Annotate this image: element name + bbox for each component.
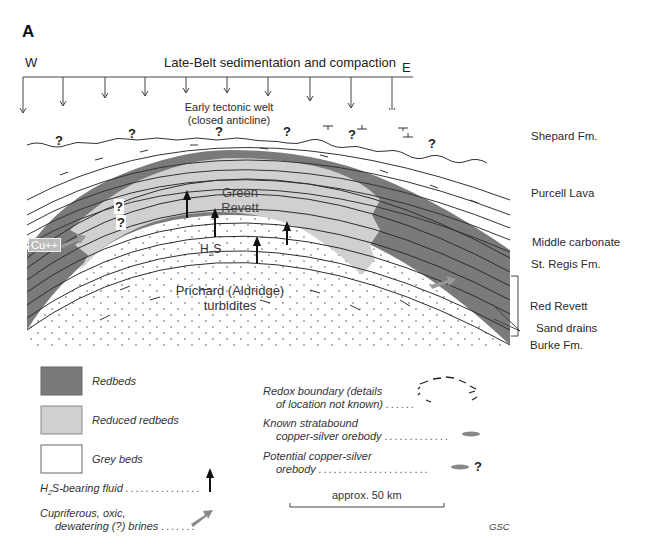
question-mark: ? [428, 136, 436, 151]
prichard-label: Prichard (Aldridge) turbidites [170, 284, 290, 314]
formation-st-regis: St. Regis Fm. [531, 258, 601, 271]
legend-known-orebody-icon [462, 432, 480, 437]
panel-letter: A [22, 22, 34, 42]
legend-label-h2s-fluid: H2S-bearing fluid ............... [40, 482, 202, 497]
legend-label-potential-orebody: Potential copper-silver orebody ........… [263, 450, 430, 475]
green-revett-label: Green Revett [210, 186, 270, 216]
formation-red-revett: Red Revett [530, 300, 588, 313]
legend-potential-question-mark: ? [474, 459, 482, 474]
question-mark: ? [55, 133, 63, 148]
credit-label: GSC [489, 521, 510, 532]
legend-swatch-reduced-redbeds [41, 406, 82, 434]
legend-redox-boundary-icon [418, 377, 477, 402]
tectonic-welt-label: Early tectonic welt (closed anticline) [164, 101, 294, 126]
question-mark: ? [215, 124, 223, 139]
formation-purcell-lava: Purcell Lava [531, 187, 594, 200]
west-label: W [25, 55, 37, 70]
formation-middle-carbonate: Middle carbonate [532, 236, 620, 249]
legend-potential-orebody-icon [451, 465, 469, 470]
legend-swatch-redbeds [41, 367, 82, 395]
h2s-label: H2S [200, 243, 221, 259]
scale-bar-label: approx. 50 km [332, 489, 402, 501]
question-mark: ? [116, 215, 126, 230]
east-label: E [402, 60, 411, 75]
legend-label-redbeds: Redbeds [92, 375, 136, 388]
legend-label-brines: Cupriferous, oxic, dewatering (?) brines… [40, 507, 197, 532]
formation-shepard: Shepard Fm. [531, 130, 597, 143]
legend-swatch-grey-beds [41, 445, 82, 473]
legend-label-grey-beds: Grey beds [92, 453, 143, 466]
legend-label-reduced-redbeds: Reduced redbeds [92, 414, 179, 427]
formation-burke: Burke Fm. [530, 339, 583, 352]
question-mark: ? [114, 199, 124, 214]
question-mark: ? [283, 124, 291, 139]
formation-sand-drains: Sand drains [536, 322, 597, 335]
question-mark: ? [128, 126, 136, 141]
legend-label-known-orebody: Known stratabound copper-silver orebody … [263, 417, 450, 442]
cu-label: Cu++ [28, 238, 61, 252]
diagram-title: Late-Belt sedimentation and compaction [0, 55, 560, 70]
question-mark: ? [348, 127, 356, 142]
scale-bar [290, 503, 444, 507]
legend-h2s-arrow-icon [206, 468, 214, 492]
legend-label-redox-boundary: Redox boundary (details of location not … [263, 385, 416, 410]
